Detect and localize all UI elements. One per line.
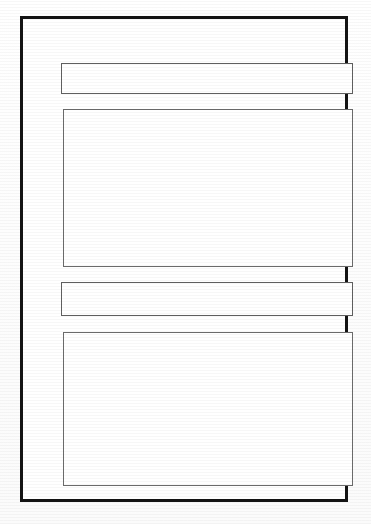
form-field-3-value [62, 283, 352, 315]
form-field-1[interactable] [61, 63, 353, 94]
page-border-frame [20, 16, 348, 502]
form-field-2[interactable] [63, 109, 353, 267]
form-field-3[interactable] [61, 282, 353, 316]
form-field-4-value [64, 333, 352, 485]
form-field-2-value [64, 110, 352, 266]
document-page [0, 0, 371, 524]
form-field-1-value [62, 64, 352, 93]
form-field-4[interactable] [63, 332, 353, 486]
